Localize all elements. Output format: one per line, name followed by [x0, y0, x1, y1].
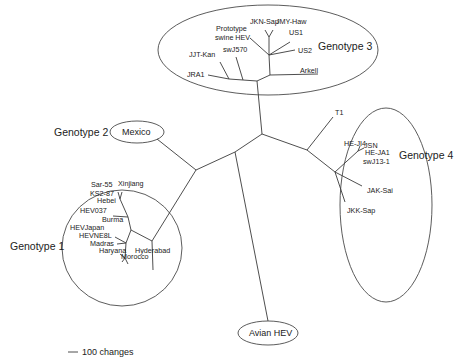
scale-bar-label: 100 changes — [82, 347, 134, 357]
leaf-he-ja1: HE-JA1 — [365, 148, 390, 157]
leaf-us1: US1 — [289, 28, 303, 37]
leaf-swine-hev: swine HEV — [215, 33, 250, 42]
genotype-1-label: Genotype 1 — [10, 240, 64, 252]
leaf-he-ji4: HE-JI4 — [344, 139, 366, 148]
leaf-arkell: Arkell — [300, 66, 318, 75]
leaf-swj13-1: swJ13-1 — [363, 157, 390, 166]
avian-hev-label: Avian HEV — [249, 328, 292, 338]
leaf-hyderabad: Hyderabad — [135, 246, 170, 255]
leaf-jkk-sap: JKK-Sap — [347, 206, 375, 215]
leaf-sar-55: Sar-55 — [91, 180, 113, 189]
genotype-4-subtree — [307, 117, 364, 202]
phylogenetic-tree: Genotype 3 Genotype 4 Genotype 2 Genotyp… — [0, 0, 461, 361]
leaf-jmy-haw: JMY-Haw — [276, 17, 307, 26]
genotype-4-ellipse — [340, 108, 432, 302]
genotype-3-label: Genotype 3 — [318, 40, 372, 52]
genotype-2-label: Genotype 2 — [54, 126, 108, 138]
leaf-jjt-kan: JJT-Kan — [189, 50, 215, 59]
leaf-hebei: Hebei — [97, 196, 116, 205]
leaf-jkn-sap: JKN-Sap — [250, 17, 279, 26]
leaf-us2: US2 — [298, 46, 312, 55]
leaf-jak-sai: JAK-Sai — [367, 186, 393, 195]
leaf-burma: Burma — [102, 215, 123, 224]
genotype-4-label: Genotype 4 — [399, 149, 453, 161]
leaf-prototype: Prototype — [216, 24, 247, 33]
mexico-label: Mexico — [122, 127, 151, 137]
leaf-hev037: HEV037 — [80, 206, 107, 215]
leaf-swj570: swJ570 — [223, 45, 247, 54]
tree-backbone — [152, 81, 307, 321]
leaf-jra1: JRA1 — [187, 70, 205, 79]
leaf-xinjiang: Xinjiang — [118, 179, 144, 188]
leaf-t1: T1 — [335, 108, 343, 117]
